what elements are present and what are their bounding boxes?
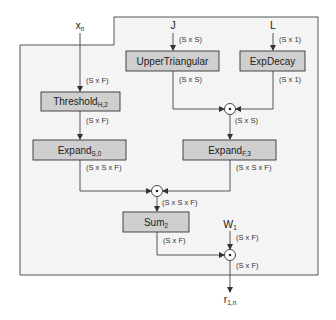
svg-text:UpperTriangular: UpperTriangular <box>137 56 210 67</box>
svg-text:(S x S x F): (S x S x F) <box>86 163 122 172</box>
output-r-label: r1,n <box>224 293 237 306</box>
expand-f-node: ExpandF,3 <box>183 140 276 160</box>
svg-text:(S x S): (S x S) <box>179 75 202 84</box>
svg-text:(S x F): (S x F) <box>236 261 259 270</box>
threshold-node: ThresholdH,2 <box>41 92 120 111</box>
attention-diagram: ThresholdH,2 ExpandS,0 UpperTriangular E… <box>0 0 336 320</box>
sum-node: Sum2 <box>123 212 189 232</box>
exp-decay-node: ExpDecay <box>240 51 305 71</box>
upper-triangular-node: UpperTriangular <box>126 51 219 71</box>
svg-text:(S x F): (S x F) <box>86 116 109 125</box>
multiply-operator-1 <box>225 104 236 115</box>
multiply-operator-2 <box>152 186 163 197</box>
input-j-label: J <box>170 19 175 31</box>
expand-s-node: ExpandS,0 <box>33 140 126 160</box>
input-l-label: L <box>270 19 276 31</box>
svg-text:(S x S x F): (S x S x F) <box>236 163 272 172</box>
svg-text:(S x F): (S x F) <box>236 233 259 242</box>
svg-text:(S x S x F): (S x S x F) <box>162 198 198 207</box>
svg-text:(S x S): (S x S) <box>179 35 202 44</box>
svg-text:(S x 1): (S x 1) <box>279 35 302 44</box>
svg-text:(S x 1): (S x 1) <box>279 75 302 84</box>
svg-text:(S x S): (S x S) <box>235 116 258 125</box>
svg-text:ExpDecay: ExpDecay <box>250 56 296 67</box>
svg-text:(S x F): (S x F) <box>163 236 186 245</box>
input-x-label: xn <box>76 19 85 32</box>
svg-text:(S x F): (S x F) <box>86 76 109 85</box>
multiply-operator-3 <box>225 250 236 261</box>
